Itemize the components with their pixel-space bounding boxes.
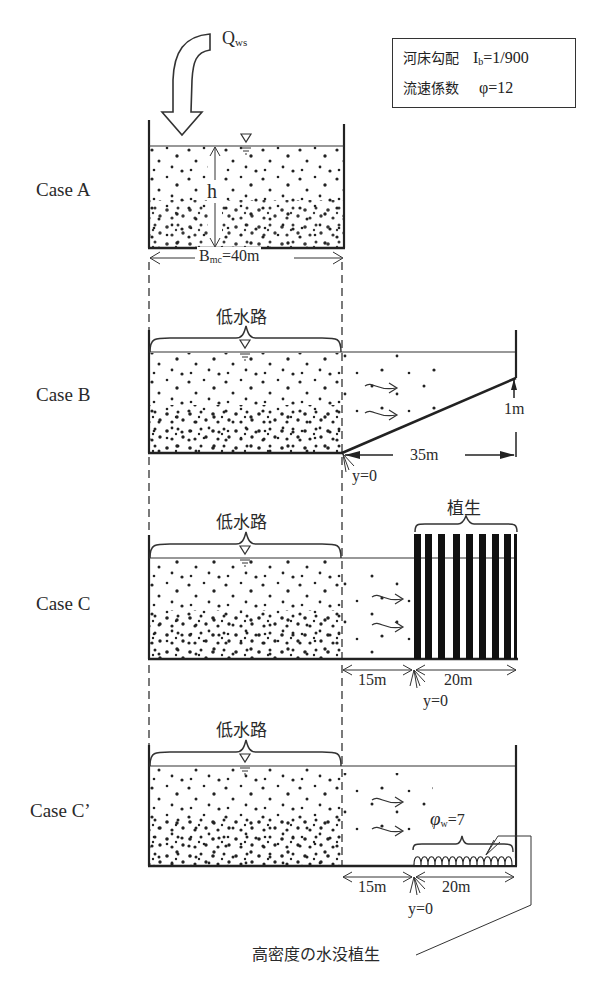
case-a-label: Case A — [36, 179, 90, 201]
veg-width-label: 20m — [442, 878, 470, 896]
case-c2-label: Case C’ — [30, 800, 91, 822]
legend-row-slope: 河床勾配Ib=1/900 — [403, 47, 529, 67]
length-label: 35m — [410, 446, 438, 464]
channel-label: 低水路 — [216, 508, 267, 533]
height-label: 1m — [504, 400, 524, 418]
width-label: Bmc=40m — [197, 247, 261, 265]
case-c2-channel — [148, 745, 517, 866]
submerged-vegetation — [414, 857, 515, 865]
vegetation-label: 植生 — [447, 494, 481, 519]
origin-label: y=0 — [408, 900, 433, 918]
inflow-arrow-icon — [162, 34, 210, 135]
inflow-label: Qws — [222, 28, 247, 49]
veg-width-label: 20m — [444, 671, 472, 689]
channel-label: 低水路 — [216, 716, 267, 741]
gap-label: 15m — [358, 878, 386, 896]
case-c-channel — [148, 535, 518, 659]
channel-label: 低水路 — [216, 303, 267, 328]
origin-label: y=0 — [352, 467, 377, 485]
diagram-canvas — [0, 0, 609, 996]
callout-leader — [416, 836, 531, 955]
case-b-label: Case B — [36, 384, 90, 406]
vegetation-bars — [414, 534, 517, 659]
legend-key: 河床勾配 — [403, 50, 459, 66]
origin-label: y=0 — [423, 692, 448, 710]
legend-key: 流速係数 — [403, 80, 459, 96]
phi-w-label: φw=7 — [430, 808, 465, 830]
callout-label: 高密度の水没植生 — [252, 941, 380, 965]
depth-label: h — [207, 180, 217, 203]
origin-marker-icon — [410, 877, 425, 895]
case-c-label: Case C — [36, 593, 90, 615]
parameter-legend: 河床勾配Ib=1/900 流速係数φ=12 — [392, 38, 576, 108]
case-b-channel — [148, 330, 516, 453]
gap-label: 15m — [358, 671, 386, 689]
legend-row-velocity: 流速係数φ=12 — [403, 77, 513, 97]
origin-marker-icon — [410, 670, 425, 688]
